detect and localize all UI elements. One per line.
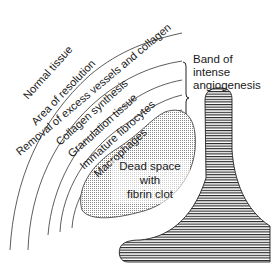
dead-space-label: Dead space with fibrin clot [112,160,190,204]
svg-text:fibrin clot: fibrin clot [127,188,174,200]
wound-healing-diagram: Normal tissue Area of resolution Removal… [0,0,275,267]
svg-text:Dead space: Dead space [119,160,180,172]
band-label: Band of intense angiogenesis [193,53,261,91]
svg-text:Band of: Band of [193,53,233,65]
svg-text:intense: intense [193,66,230,78]
svg-text:with: with [139,174,160,186]
svg-text:angiogenesis: angiogenesis [193,79,261,91]
